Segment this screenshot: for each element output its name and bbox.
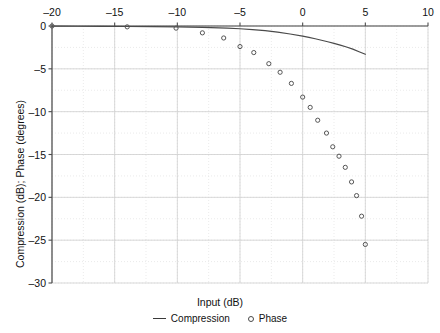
x-tick-label: –5 xyxy=(234,6,246,18)
chart-legend: Compression Phase xyxy=(0,313,440,324)
y-tick-label: –15 xyxy=(0,149,46,161)
legend-item-phase: Phase xyxy=(248,313,287,324)
phase-data-point xyxy=(222,36,226,40)
x-axis-title: Input (dB) xyxy=(0,296,440,308)
phase-data-point xyxy=(278,70,282,74)
phase-data-point xyxy=(316,118,320,122)
y-tick-label: 0 xyxy=(0,20,46,32)
x-tick-label: 10 xyxy=(422,6,434,18)
y-tick-label: –5 xyxy=(0,63,46,75)
x-tick-label: –20 xyxy=(43,6,61,18)
y-tick-label: –25 xyxy=(0,234,46,246)
phase-data-point xyxy=(267,62,271,66)
line-swatch-icon xyxy=(153,318,166,319)
legend-item-compression: Compression xyxy=(153,313,230,324)
chart-figure: Compression (dB); Phase (degrees) Input … xyxy=(0,0,440,333)
legend-label-phase: Phase xyxy=(259,313,287,324)
phase-data-point xyxy=(308,105,312,109)
x-tick-label: –15 xyxy=(106,6,124,18)
y-tick-label: –20 xyxy=(0,191,46,203)
phase-data-point xyxy=(349,180,353,184)
x-tick-label: –10 xyxy=(169,6,187,18)
y-tick-label: –30 xyxy=(0,277,46,289)
circle-marker-icon xyxy=(248,316,254,322)
phase-data-point xyxy=(289,81,293,85)
phase-data-point xyxy=(343,165,347,169)
x-tick-label: 0 xyxy=(300,6,306,18)
phase-data-point xyxy=(359,214,363,218)
phase-data-point xyxy=(200,31,204,35)
phase-data-point xyxy=(252,50,256,54)
plot-area xyxy=(0,0,440,333)
y-tick-label: –10 xyxy=(0,106,46,118)
x-tick-label: 5 xyxy=(362,6,368,18)
legend-label-compression: Compression xyxy=(171,313,230,324)
